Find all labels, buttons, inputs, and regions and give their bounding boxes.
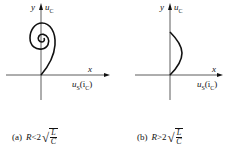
- x-axis-quantity-label: uS(iC): [72, 80, 92, 93]
- phase-plot-b: y uC x uS(iC) (b) R > 2 √ L C: [117, 0, 233, 157]
- y-axis-arrow-icon: [168, 3, 172, 10]
- caption-a: (a) R < 2 √ L C: [12, 128, 58, 146]
- caption-tag: (b): [137, 132, 148, 142]
- denominator: C: [51, 138, 56, 146]
- y-axis-quantity-label: uC: [45, 3, 54, 16]
- x-axis-quantity-label: uS(iC): [197, 80, 217, 93]
- fraction: L C: [49, 128, 57, 146]
- radical-icon: √: [42, 131, 49, 144]
- sqrt-expression: √ L C: [42, 128, 58, 146]
- sqrt-expression: √ L C: [168, 128, 184, 146]
- phase-plot-b-canvas: [117, 0, 233, 120]
- x-axis-arrow-icon: [104, 73, 110, 77]
- y-axis-arrow-icon: [39, 3, 43, 10]
- x-axis-var-label: x: [212, 65, 216, 74]
- x-axis-var-label: x: [88, 65, 92, 74]
- arc-trajectory: [170, 32, 182, 75]
- y-axis-quantity-label: uC: [174, 3, 183, 16]
- x-axis-arrow-icon: [217, 73, 223, 77]
- caption-coef: 2: [37, 132, 42, 142]
- caption-coef: 2: [162, 132, 167, 142]
- denominator: C: [176, 138, 181, 146]
- caption-b: (b) R > 2 √ L C: [137, 128, 183, 146]
- phase-plot-a-canvas: [0, 0, 116, 120]
- caption-tag: (a): [12, 132, 22, 142]
- y-axis-var-label: y: [31, 3, 35, 12]
- y-axis-var-label: y: [160, 3, 164, 12]
- phase-plot-a: y uC x uS(iC) (a) R < 2 √ L C: [0, 0, 116, 157]
- radical-icon: √: [168, 131, 175, 144]
- fraction: L C: [175, 128, 183, 146]
- spiral-trajectory: [30, 23, 55, 75]
